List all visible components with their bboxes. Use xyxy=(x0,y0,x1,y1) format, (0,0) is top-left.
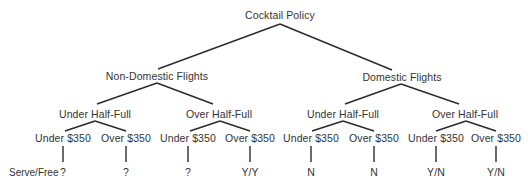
node-price-4: Over $350 xyxy=(225,132,275,144)
edge-nondomestic-under-half xyxy=(97,83,157,104)
node-price-7: Under $350 xyxy=(408,132,464,144)
node-price-1: Under $350 xyxy=(35,132,91,144)
node-price-6: Over $350 xyxy=(349,132,399,144)
leaf-value-3: ? xyxy=(185,166,191,178)
node-price-8: Over $350 xyxy=(471,132,521,144)
edge-root-nondomestic xyxy=(158,24,280,69)
edge-nondomestic-over-half xyxy=(157,83,213,104)
node-non-domestic-flights: Non-Domestic Flights xyxy=(106,70,208,82)
edge-nd-under-half-over350 xyxy=(95,121,126,131)
tree-edges xyxy=(0,0,528,188)
edge-root-domestic xyxy=(280,24,392,70)
node-price-2: Over $350 xyxy=(101,132,151,144)
leaf-value-2: ? xyxy=(123,166,129,178)
edge-nd-over-half-under350 xyxy=(190,121,220,131)
node-d-under-half-full: Under Half-Full xyxy=(307,108,379,120)
edge-d-under-half-over350 xyxy=(343,121,374,131)
edge-nd-under-half-under350 xyxy=(65,121,95,131)
serve-free-row-label: Serve/Free xyxy=(9,167,58,178)
edge-domestic-under-half xyxy=(345,84,401,104)
edge-nd-over-half-over350 xyxy=(220,121,250,131)
edge-domestic-over-half xyxy=(401,84,459,104)
leaf-value-7: Y/N xyxy=(427,166,445,178)
leaf-value-6: N xyxy=(370,166,378,178)
edge-d-over-half-under350 xyxy=(436,121,466,131)
leaf-value-5: N xyxy=(307,166,315,178)
node-nd-under-half-full: Under Half-Full xyxy=(59,108,131,120)
node-domestic-flights: Domestic Flights xyxy=(362,71,441,83)
node-price-3: Under $350 xyxy=(160,132,216,144)
node-price-5: Under $350 xyxy=(283,132,339,144)
root-node-cocktail-policy: Cocktail Policy xyxy=(245,9,315,21)
leaf-value-4: Y/Y xyxy=(241,166,258,178)
edge-d-over-half-over350 xyxy=(466,121,496,131)
edge-d-under-half-under350 xyxy=(312,121,343,131)
leaf-value-1: ? xyxy=(60,166,66,178)
node-d-over-half-full: Over Half-Full xyxy=(432,108,498,120)
leaf-value-8: Y/N xyxy=(487,166,505,178)
node-nd-over-half-full: Over Half-Full xyxy=(186,108,252,120)
